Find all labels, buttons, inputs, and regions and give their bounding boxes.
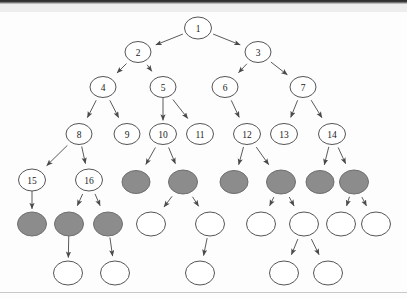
tree-node-unlabeled [270, 261, 299, 285]
page-bottom-rule [0, 292, 407, 293]
tree-edge [338, 148, 345, 164]
tree-node-unlabeled [306, 171, 334, 194]
tree-edge [347, 197, 350, 206]
tree-edge [311, 239, 319, 255]
tree-node-7: 7 [290, 77, 316, 98]
tree-edge [291, 100, 298, 117]
tree-edge [77, 194, 82, 206]
node-circle-open [271, 124, 298, 145]
tree-edge [87, 100, 96, 117]
node-circle-open [54, 261, 83, 285]
tree-edge [239, 64, 247, 73]
tree-edge [169, 147, 176, 163]
tree-node-unlabeled [290, 212, 319, 236]
tree-node-11: 11 [187, 124, 214, 145]
node-circle-open [19, 169, 46, 191]
tree-node-unlabeled [196, 212, 225, 236]
node-circle-open [137, 212, 166, 236]
tree-edge [110, 238, 113, 257]
tree-node-6: 6 [212, 77, 238, 98]
tree-edge [213, 34, 240, 45]
tree-node-3: 3 [245, 42, 271, 63]
tree-node-1: 1 [185, 17, 212, 39]
tree-node-16: 16 [76, 169, 103, 191]
tree-node-13: 13 [271, 124, 298, 145]
tree-node-2: 2 [125, 42, 151, 63]
node-circle-open [319, 124, 346, 145]
node-circle-open [76, 169, 103, 191]
node-circle-filled [306, 171, 334, 194]
tree-edge [271, 62, 287, 75]
tree-node-unlabeled [220, 171, 248, 194]
page-top-light-band [0, 4, 407, 12]
node-circle-open [234, 124, 261, 145]
node-circle-open [187, 124, 214, 145]
tree-node-15: 15 [19, 169, 46, 191]
tree-node-14: 14 [319, 124, 346, 145]
node-circle-open [114, 124, 140, 145]
node-circle-filled [340, 170, 369, 194]
tree-edge [291, 239, 297, 255]
node-circle-open [150, 124, 177, 145]
tree-node-unlabeled [340, 170, 369, 194]
tree-edge [82, 146, 86, 163]
node-circle-open [290, 77, 316, 98]
node-circle-open [290, 212, 319, 236]
tree-node-12: 12 [234, 124, 261, 145]
node-circle-filled [18, 212, 47, 236]
tree-node-unlabeled [186, 261, 215, 285]
node-circle-open [245, 42, 271, 63]
tree-edge [204, 238, 208, 255]
node-circle-open [101, 261, 130, 285]
tree-graph-svg: 12345678910111213141516 [0, 12, 407, 292]
tree-edge [362, 197, 367, 206]
tree-node-unlabeled [247, 212, 276, 236]
node-circle-open [196, 212, 225, 236]
tree-node-unlabeled [122, 171, 150, 194]
tree-edge [95, 194, 100, 206]
node-circle-open [270, 261, 299, 285]
node-circle-open [362, 212, 391, 236]
node-circle-open [125, 42, 151, 63]
tree-node-10: 10 [150, 124, 177, 145]
tree-node-unlabeled [101, 261, 130, 285]
node-circle-open [66, 124, 92, 145]
tree-node-unlabeled [169, 170, 198, 194]
tree-node-unlabeled [55, 212, 84, 236]
tree-edge [256, 147, 268, 164]
tree-edge [147, 65, 152, 71]
tree-edge [311, 100, 322, 117]
figure-page: 12345678910111213141516 [0, 0, 407, 299]
node-circle-filled [267, 170, 296, 194]
tree-edge [239, 147, 244, 165]
tree-node-unlabeled [94, 212, 123, 236]
node-circle-open [150, 77, 176, 98]
tree-diagram-canvas: 12345678910111213141516 [0, 12, 407, 292]
tree-node-unlabeled [314, 261, 343, 285]
tree-nodes-layer: 12345678910111213141516 [18, 17, 391, 285]
tree-node-unlabeled [267, 170, 296, 194]
node-circle-open [314, 261, 343, 285]
tree-node-5: 5 [150, 77, 176, 98]
tree-edge [156, 34, 183, 45]
tree-edge [289, 197, 294, 206]
tree-edge [164, 196, 172, 207]
node-circle-filled [94, 212, 123, 236]
tree-node-unlabeled [327, 212, 356, 236]
tree-edge [110, 100, 119, 117]
tree-edge [117, 64, 126, 73]
tree-edge [270, 197, 274, 206]
tree-node-unlabeled [18, 212, 47, 236]
tree-edge [231, 100, 239, 117]
node-circle-open [185, 17, 212, 39]
tree-node-9: 9 [114, 124, 140, 145]
tree-edge [47, 145, 68, 165]
tree-node-unlabeled [137, 212, 166, 236]
node-circle-open [90, 77, 116, 98]
node-circle-open [212, 77, 238, 98]
tree-edge [193, 197, 199, 206]
tree-edge [146, 147, 156, 164]
node-circle-open [247, 212, 276, 236]
tree-node-unlabeled [54, 261, 83, 285]
node-circle-open [186, 261, 215, 285]
